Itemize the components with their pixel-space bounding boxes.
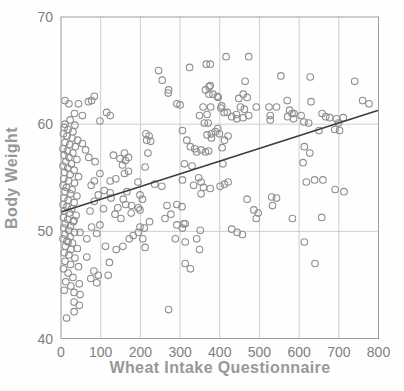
y-tick-label: 50: [37, 223, 53, 239]
data-point: [146, 218, 153, 225]
data-point: [86, 154, 93, 161]
y-tick-label: 40: [37, 331, 53, 347]
data-point: [165, 306, 172, 313]
data-point: [182, 239, 189, 246]
data-point: [308, 98, 315, 105]
data-point: [205, 120, 212, 127]
data-point: [207, 61, 214, 68]
data-point: [72, 143, 79, 150]
data-point: [77, 291, 84, 298]
data-point: [301, 143, 308, 150]
data-point: [71, 308, 78, 315]
data-point: [221, 137, 228, 144]
data-point: [75, 263, 82, 270]
x-tick-label: 800: [367, 344, 391, 360]
data-point: [61, 287, 68, 294]
data-point: [79, 112, 86, 119]
data-point: [204, 111, 211, 118]
data-point: [189, 163, 196, 170]
data-point: [121, 150, 128, 157]
data-point: [242, 78, 249, 85]
data-point: [71, 167, 78, 174]
data-point: [359, 97, 366, 104]
x-tick-label: 0: [57, 344, 65, 360]
data-point: [75, 101, 82, 108]
data-point: [326, 114, 333, 121]
data-point: [63, 315, 70, 322]
data-point: [303, 179, 310, 186]
x-tick-label: 600: [287, 344, 311, 360]
data-point: [307, 150, 314, 157]
data-point: [168, 211, 175, 218]
data-point: [186, 64, 193, 71]
data-point: [253, 104, 260, 111]
data-point: [141, 225, 148, 232]
data-point: [72, 255, 79, 262]
data-point: [200, 104, 207, 111]
data-point: [273, 104, 280, 111]
data-point: [100, 206, 107, 213]
data-point: [118, 215, 125, 222]
data-point: [84, 254, 91, 261]
data-point: [284, 97, 291, 104]
data-point: [244, 196, 251, 203]
x-tick-label: 200: [129, 344, 153, 360]
data-point: [312, 260, 319, 267]
data-point: [74, 137, 81, 144]
data-point: [82, 147, 89, 154]
data-point: [70, 274, 77, 281]
data-point: [200, 184, 207, 191]
data-point: [181, 161, 188, 168]
data-point: [97, 222, 104, 229]
data-point: [341, 188, 348, 195]
data-point: [72, 122, 79, 129]
x-tick-label: 300: [168, 344, 192, 360]
data-point: [196, 112, 203, 119]
y-tick-label: 60: [37, 116, 53, 132]
data-point: [164, 202, 171, 209]
scatter-plot: 405060700100200300400500600700800: [0, 0, 404, 391]
data-point: [245, 53, 252, 60]
data-point: [278, 73, 285, 80]
data-point: [172, 236, 179, 243]
data-point: [159, 77, 166, 84]
data-point: [184, 137, 191, 144]
x-tick-label: 100: [89, 344, 113, 360]
data-point: [366, 101, 373, 108]
x-tick-label: 700: [327, 344, 351, 360]
data-point: [155, 67, 162, 74]
data-point: [128, 210, 135, 217]
data-point: [267, 117, 274, 124]
data-point: [162, 215, 169, 222]
x-axis-title: Wheat Intake Questionnaire: [61, 359, 379, 377]
data-point: [93, 280, 100, 287]
data-point: [106, 259, 113, 266]
data-point: [97, 118, 104, 125]
data-point: [142, 244, 149, 251]
data-point: [115, 205, 122, 212]
data-point: [236, 95, 243, 102]
data-point: [112, 211, 119, 218]
data-point: [88, 224, 95, 231]
data-point: [207, 185, 214, 192]
scatter-plot-figure: Body Weight 4050607001002003004005006007…: [0, 0, 404, 391]
data-point: [142, 164, 149, 171]
data-point: [74, 193, 81, 200]
data-point: [182, 260, 189, 267]
data-point: [307, 74, 314, 81]
data-point: [87, 208, 94, 215]
data-point: [113, 246, 120, 253]
data-point: [74, 245, 81, 252]
data-point: [105, 272, 112, 279]
data-point: [84, 236, 91, 243]
data-point: [92, 158, 99, 165]
data-point: [351, 78, 358, 85]
data-point: [71, 180, 78, 187]
data-point: [289, 215, 296, 222]
data-point: [120, 243, 127, 250]
data-point: [79, 140, 86, 147]
y-tick-label: 70: [37, 9, 53, 25]
data-point: [159, 183, 166, 190]
data-point: [110, 152, 117, 159]
data-point: [336, 127, 343, 134]
